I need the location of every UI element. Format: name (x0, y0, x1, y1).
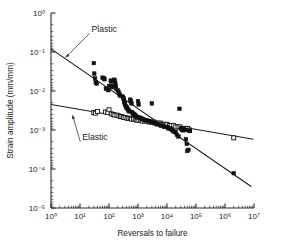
data-point-plastic (93, 77, 97, 81)
x-tick-label: 10³ (132, 212, 144, 221)
data-point-plastic (110, 85, 114, 89)
data-point-plastic (150, 102, 154, 106)
x-tick-label: 10¹ (74, 212, 86, 221)
data-point-plastic (178, 107, 182, 111)
data-point-plastic (183, 128, 187, 132)
x-tick-label: 10² (103, 212, 115, 221)
data-point-plastic (232, 171, 236, 175)
x-tick-label: 10⁶ (219, 212, 231, 221)
x-tick-label: 10⁰ (45, 212, 57, 221)
annotation-label-plastic: Plastic (92, 24, 118, 34)
data-point-elastic (232, 136, 236, 140)
data-point-plastic (130, 102, 134, 106)
x-tick-label: 10⁵ (190, 212, 202, 221)
y-axis-title: Strain amplitude (mm/mm) (6, 62, 15, 159)
data-point-plastic (188, 129, 192, 133)
y-tick-label: 10⁻⁴ (29, 165, 46, 174)
data-point-plastic (177, 135, 181, 139)
y-tick-label: 10⁻⁵ (29, 204, 45, 213)
x-tick-label: 10⁷ (248, 212, 260, 221)
data-point-plastic (92, 72, 96, 76)
data-point-plastic (187, 148, 191, 152)
y-tick-label: 10⁰ (33, 9, 45, 18)
x-tick-label: 10⁴ (161, 212, 174, 221)
data-point-plastic (136, 99, 140, 103)
data-point-elastic (95, 109, 99, 113)
data-point-plastic (95, 82, 99, 86)
y-tick-label: 10⁻¹ (29, 48, 45, 57)
y-tick-label: 10⁻³ (29, 126, 45, 135)
data-point-elastic (107, 108, 111, 112)
data-point-plastic (185, 142, 189, 146)
data-point-plastic (92, 61, 96, 65)
x-axis-title: Reversals to failure (117, 229, 188, 238)
chart-figure: 10⁰10¹10²10³10⁴10⁵10⁶10⁷ 10⁰10⁻¹10⁻²10⁻³… (0, 0, 297, 243)
strain-life-log-log-chart: 10⁰10¹10²10³10⁴10⁵10⁶10⁷ 10⁰10⁻¹10⁻²10⁻³… (0, 0, 297, 243)
data-point-plastic (184, 137, 188, 141)
annotation-label-elastic: Elastic (82, 132, 108, 142)
y-tick-label: 10⁻² (29, 87, 45, 96)
data-point-plastic (103, 77, 107, 81)
data-point-plastic (137, 103, 141, 107)
data-point-plastic (107, 88, 111, 92)
